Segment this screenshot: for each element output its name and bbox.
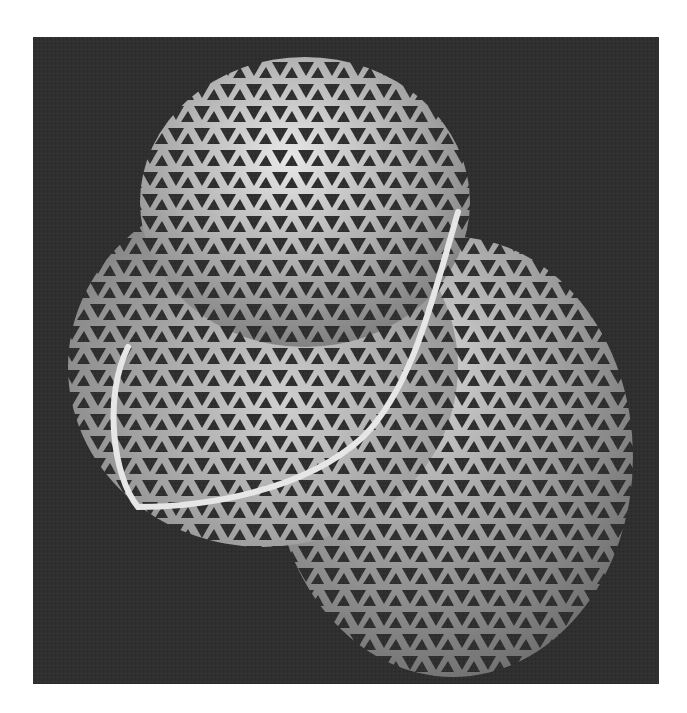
render-panel [33,37,659,684]
lattice-surface-render [33,37,659,684]
top-lobe [140,57,470,347]
